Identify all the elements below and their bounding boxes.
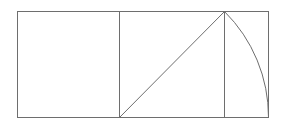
golden-rectangle-diagram	[0, 0, 284, 123]
outer-rectangle	[18, 12, 269, 118]
arc	[225, 12, 269, 118]
diagonal-line	[120, 12, 225, 118]
